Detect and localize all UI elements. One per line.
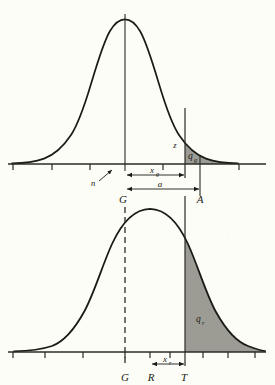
distribution-figure: z q g n x g a G A xyxy=(0,0,275,385)
G-label-top: G xyxy=(119,193,127,205)
diagram-page: z q g n x g a G A xyxy=(0,0,275,385)
bottom-panel: q r x r G R T xyxy=(8,196,266,383)
A-label-top: A xyxy=(196,193,204,205)
n-label: n xyxy=(91,178,95,188)
z-label: z xyxy=(172,140,177,150)
q-g-shaded-area xyxy=(8,20,266,165)
top-panel: z q g n x g a G A xyxy=(8,14,266,205)
bottom-bell-curve xyxy=(14,209,265,352)
xr-label-subscript: r xyxy=(169,359,172,366)
n-pointer-arrow xyxy=(99,170,112,181)
top-axis-ticks xyxy=(13,164,239,170)
G-label-bottom: G xyxy=(121,371,129,383)
qg-label-base: q xyxy=(188,151,193,161)
xg-label-base: x xyxy=(149,165,154,175)
bottom-axis-ticks xyxy=(13,352,255,358)
xg-label-subscript: g xyxy=(156,170,159,177)
R-label-bottom: R xyxy=(147,371,155,383)
qr-label-base: q xyxy=(196,314,201,324)
a-label: a xyxy=(158,179,163,189)
T-label-bottom: T xyxy=(181,371,188,383)
xr-label-base: x xyxy=(162,354,167,364)
